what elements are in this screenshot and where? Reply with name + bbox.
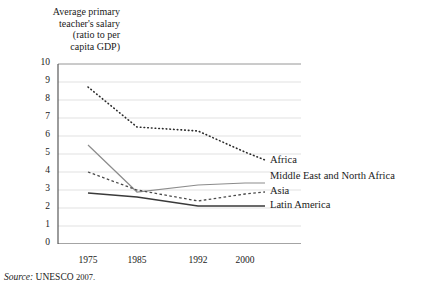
y-axis-title-line-2: teacher's salary: [2, 18, 120, 30]
source-text: UNESCO: [36, 272, 74, 282]
source-year: 2007.: [76, 272, 95, 282]
y-tick-label-5: 5: [28, 147, 50, 157]
y-tick-label-10: 10: [28, 57, 50, 67]
series-label-africa: Africa: [270, 154, 297, 165]
x-tick-label-1992: 1992: [176, 255, 220, 265]
y-tick-label-3: 3: [28, 183, 50, 193]
y-tick-label-2: 2: [28, 201, 50, 211]
series-label-middle-east-north-africa: Middle East and North Africa: [270, 170, 395, 181]
chart-svg: [57, 63, 301, 244]
y-axis-title-line-3: (ratio to per: [2, 29, 120, 41]
y-axis-title-line-4: capita GDP): [2, 41, 120, 53]
y-tick-label-7: 7: [28, 111, 50, 121]
figure: Average primary teacher's salary (ratio …: [0, 0, 433, 291]
y-tick-label-0: 0: [28, 237, 50, 247]
y-tick-label-4: 4: [28, 165, 50, 175]
source-label: Source:: [4, 272, 33, 282]
series-line-africa: [88, 87, 265, 160]
y-tick-label-1: 1: [28, 219, 50, 229]
series-label-asia: Asia: [270, 185, 289, 196]
series-line-mena: [88, 145, 265, 192]
source-note: Source: UNESCO 2007.: [4, 272, 95, 282]
x-tick-label-2000: 2000: [223, 255, 267, 265]
y-axis-title: Average primary teacher's salary (ratio …: [2, 6, 120, 52]
x-tick-label-1975: 1975: [66, 255, 110, 265]
y-tick-label-9: 9: [28, 75, 50, 85]
x-tick-label-1985: 1985: [115, 255, 159, 265]
y-tick-label-6: 6: [28, 129, 50, 139]
y-axis-title-line-1: Average primary: [2, 6, 120, 18]
plot-area: [57, 63, 301, 244]
gridlines: [58, 82, 301, 226]
series-line-asia: [88, 172, 265, 201]
series-label-latin-america: Latin America: [270, 199, 330, 210]
y-tick-label-8: 8: [28, 93, 50, 103]
